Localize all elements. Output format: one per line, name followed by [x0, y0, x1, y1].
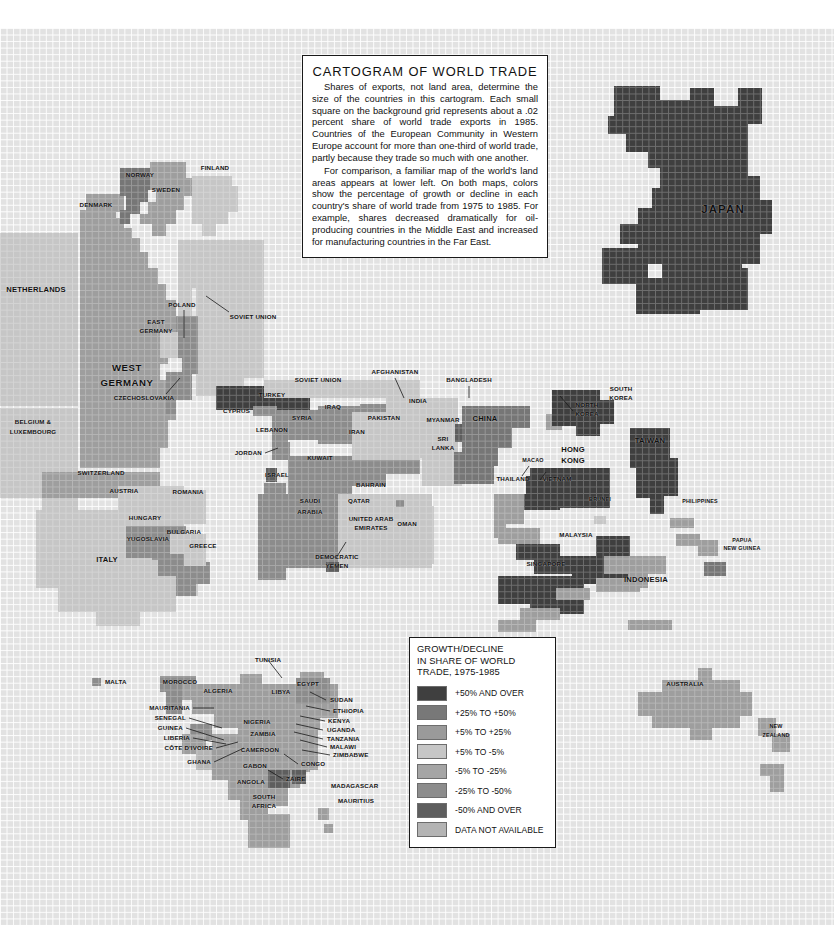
- legend-panel: GROWTH/DECLINE IN SHARE OF WORLD TRADE, …: [409, 637, 556, 848]
- legend-label: +50% AND OVER: [455, 688, 524, 698]
- legend-label: +25% TO +50%: [455, 708, 516, 718]
- legend-swatch: [417, 744, 447, 759]
- legend-label: +5% TO +25%: [455, 727, 511, 737]
- legend-item: -25% TO -50%: [417, 782, 548, 800]
- description-paragraph-2: For comparison, a familiar map of the wo…: [312, 166, 538, 249]
- legend-title-line-2: IN SHARE OF WORLD: [417, 656, 548, 668]
- legend-swatch: [417, 686, 447, 701]
- legend-swatch: [417, 725, 447, 740]
- legend-swatch: [417, 822, 447, 837]
- description-panel: CARTOGRAM OF WORLD TRADE Shares of expor…: [302, 55, 548, 258]
- cartogram-title: CARTOGRAM OF WORLD TRADE: [312, 64, 538, 79]
- legend-swatch: [417, 783, 447, 798]
- cartogram-page: NETHERLANDSBELGIUM &LUXEMBOURGDENMARKNOR…: [0, 0, 834, 947]
- description-paragraph-1: Shares of exports, not land area, determ…: [312, 82, 538, 165]
- legend-title-line-3: TRADE, 1975-1985: [417, 667, 548, 679]
- legend-item: +25% TO +50%: [417, 704, 548, 722]
- legend-item: +5% TO -5%: [417, 743, 548, 761]
- legend-swatch: [417, 705, 447, 720]
- legend-item: -50% AND OVER: [417, 801, 548, 819]
- legend-label: -25% TO -50%: [455, 786, 512, 796]
- legend-item: +5% TO +25%: [417, 723, 548, 741]
- legend-swatch: [417, 803, 447, 818]
- legend-title: GROWTH/DECLINE IN SHARE OF WORLD TRADE, …: [417, 644, 548, 679]
- legend-label: -50% AND OVER: [455, 805, 522, 815]
- legend-swatch: [417, 764, 447, 779]
- legend-rows: +50% AND OVER+25% TO +50%+5% TO +25%+5% …: [417, 684, 548, 839]
- legend-label: -5% TO -25%: [455, 766, 507, 776]
- legend-label: +5% TO -5%: [455, 747, 504, 757]
- legend-item: -5% TO -25%: [417, 762, 548, 780]
- legend-item: DATA NOT AVAILABLE: [417, 821, 548, 839]
- legend-label: DATA NOT AVAILABLE: [455, 825, 543, 835]
- legend-item: +50% AND OVER: [417, 684, 548, 702]
- legend-title-line-1: GROWTH/DECLINE: [417, 644, 548, 656]
